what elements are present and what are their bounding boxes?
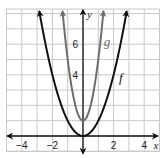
- y-tick-label: 4: [72, 70, 78, 81]
- axes: [8, 10, 158, 153]
- x-tick-label: −2: [47, 140, 59, 151]
- curve-label-f: f: [119, 70, 125, 85]
- y-tick-label: 6: [72, 39, 78, 50]
- x-axis-name: x: [153, 139, 159, 151]
- x-tick-label: −4: [16, 140, 28, 151]
- curve-label-g: g: [104, 34, 111, 49]
- x-tick-label: 4: [141, 140, 147, 151]
- x-tick-label: 2: [111, 140, 117, 151]
- y-axis-name: y: [86, 8, 92, 20]
- graph: −4−22446xyfg: [0, 0, 166, 158]
